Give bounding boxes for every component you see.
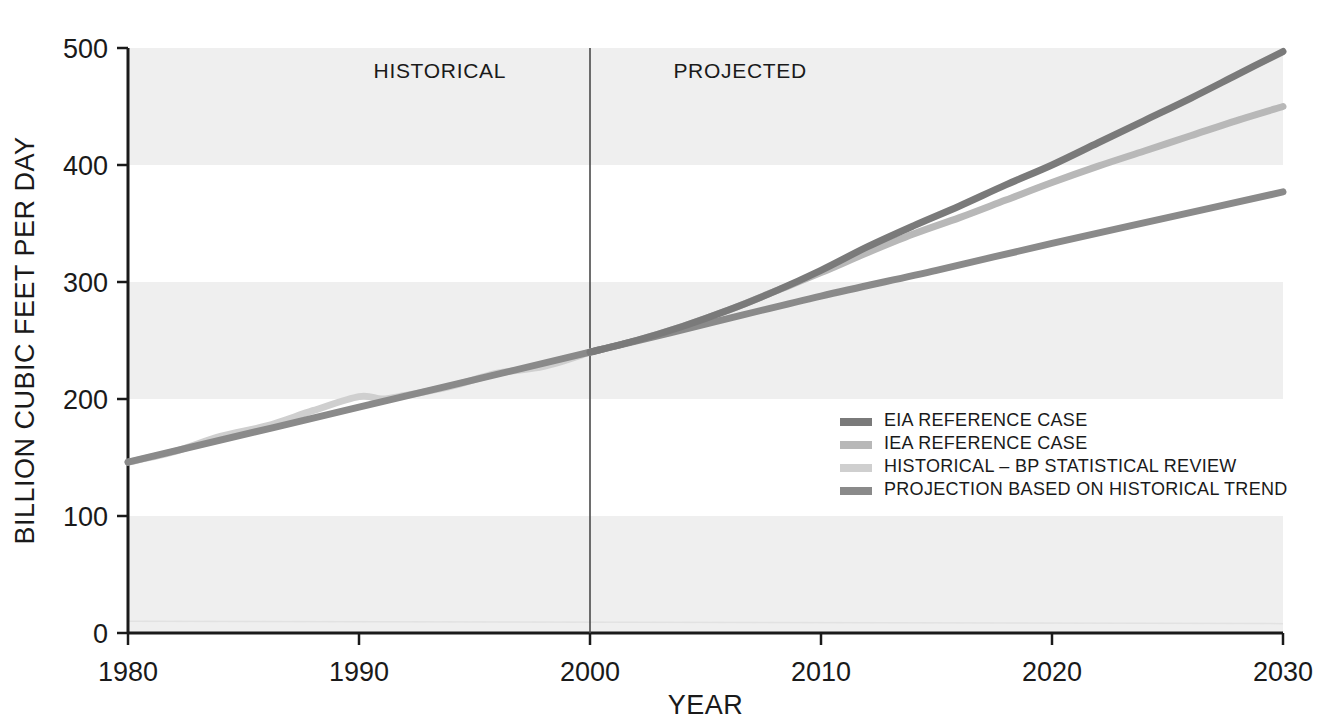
x-tick-label-2010: 2010 [791,657,851,687]
chart-container: 0100200300400500198019902000201020202030… [0,0,1333,724]
line-chart: 0100200300400500198019902000201020202030… [0,0,1333,724]
background-band-0 [128,516,1283,633]
legend-swatch-3 [840,487,872,495]
region-label-projected: PROJECTED [673,59,806,82]
y-tick-label-200: 200 [63,385,108,415]
legend-label-1: IEA REFERENCE CASE [884,433,1087,453]
legend-label-2: HISTORICAL – BP STATISTICAL REVIEW [884,456,1237,476]
x-axis-title: YEAR [668,690,744,720]
x-tick-label-1990: 1990 [329,657,389,687]
y-tick-label-500: 500 [63,34,108,64]
x-tick-label-2000: 2000 [560,657,620,687]
y-tick-label-0: 0 [93,619,108,649]
y-tick-label-300: 300 [63,268,108,298]
legend-label-0: EIA REFERENCE CASE [884,410,1087,430]
legend-swatch-0 [840,418,872,426]
x-tick-label-2020: 2020 [1022,657,1082,687]
region-label-historical: HISTORICAL [374,59,507,82]
y-tick-label-100: 100 [63,502,108,532]
y-tick-label-400: 400 [63,151,108,181]
legend-swatch-1 [840,441,872,449]
background-band-1 [128,282,1283,399]
legend-label-3: PROJECTION BASED ON HISTORICAL TREND [884,479,1288,499]
y-axis-title: BILLION CUBIC FEET PER DAY [10,136,40,544]
legend-swatch-2 [840,464,872,472]
x-tick-label-1980: 1980 [98,657,158,687]
x-tick-label-2030: 2030 [1253,657,1313,687]
